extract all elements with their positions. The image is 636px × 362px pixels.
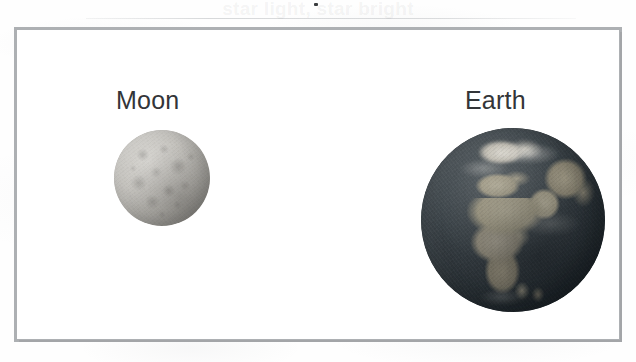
earth-limb-shading: [421, 128, 605, 312]
moon-limb-shading: [114, 130, 210, 226]
earth-sphere: [421, 128, 605, 312]
scanned-page: star light, star bright Moon Earth: [0, 0, 636, 362]
ghost-rule-artifact: [86, 18, 576, 19]
moon-label: Moon: [116, 88, 179, 113]
figure-frame: Moon Earth: [14, 27, 622, 342]
earth-label: Earth: [465, 88, 526, 113]
scan-speck-artifact: [314, 3, 318, 6]
moon-sphere: [114, 130, 210, 226]
ghost-heading-bleedthrough: star light, star bright: [0, 0, 636, 20]
